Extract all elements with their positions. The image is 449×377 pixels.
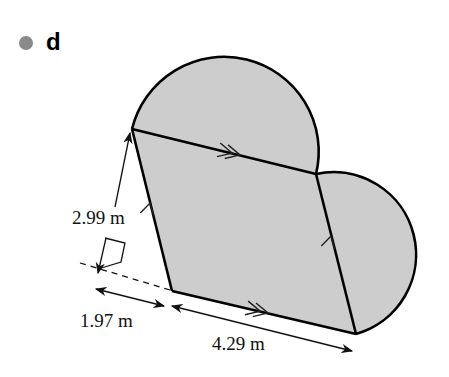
base-extension-dashed <box>80 263 170 290</box>
offset-label: 1.97 m <box>80 310 133 331</box>
base-label: 4.29 m <box>212 333 265 354</box>
height-dimension-upper <box>115 133 130 207</box>
offset-dimension <box>96 289 164 306</box>
height-label: 2.99 m <box>72 207 125 228</box>
composite-shape-diagram: 2.99 m 1.97 m 4.29 m <box>0 0 449 377</box>
